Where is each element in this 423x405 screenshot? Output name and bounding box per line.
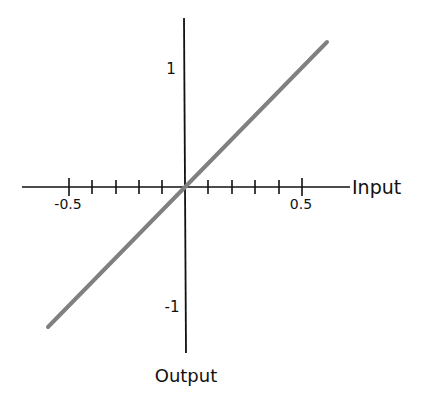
x-tick-label-pos: 0.5	[290, 196, 312, 212]
data-line	[48, 42, 327, 327]
x-axis-label: Input	[352, 176, 401, 198]
x-tick-label-neg: -0.5	[54, 196, 81, 212]
y-tick-label-neg: -1	[165, 298, 180, 316]
y-axis-label: Output	[155, 365, 218, 386]
y-tick-label-pos: 1	[166, 60, 176, 78]
line-chart: -0.5 0.5 1 -1 Input Output	[0, 0, 423, 405]
